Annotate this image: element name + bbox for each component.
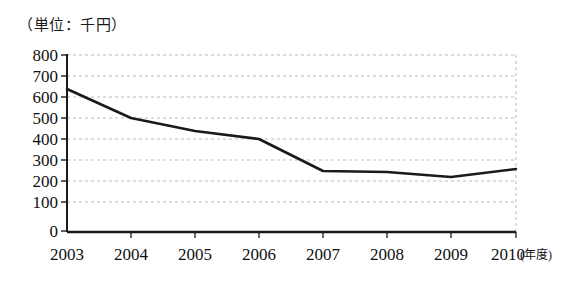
line-chart-svg: 800 700 600 500 400 300 200 100 0 2003 <box>0 0 574 281</box>
y-axis-label-0: 0 <box>50 222 59 241</box>
x-axis-unit-label: (年度) <box>520 247 552 262</box>
data-line-series-1 <box>67 89 516 177</box>
x-axis-label-2003: 2003 <box>50 245 84 264</box>
y-axis-label-600: 600 <box>33 88 59 107</box>
y-axis-label-300: 300 <box>33 151 59 170</box>
x-axis-label-2005: 2005 <box>178 245 212 264</box>
x-axis-label-2006: 2006 <box>242 245 276 264</box>
y-axis-label-500: 500 <box>33 109 59 128</box>
y-axis-label-100: 100 <box>33 193 59 212</box>
x-axis-label-2008: 2008 <box>370 245 404 264</box>
x-axis-label-2007: 2007 <box>306 245 341 264</box>
y-axis-label-800: 800 <box>33 46 59 65</box>
y-axis-label-400: 400 <box>33 130 59 149</box>
x-axis-labels: 2003 2004 2005 2006 2007 2008 2009 2010 … <box>50 245 552 264</box>
y-axis-label-200: 200 <box>33 172 59 191</box>
chart-container: （単位：千円） <box>0 0 574 281</box>
y-axis-labels: 800 700 600 500 400 300 200 100 0 <box>33 46 59 241</box>
x-axis-label-2009: 2009 <box>434 245 468 264</box>
x-axis-label-2004: 2004 <box>114 245 149 264</box>
y-axis-label-700: 700 <box>33 67 59 86</box>
gridlines <box>67 55 516 202</box>
